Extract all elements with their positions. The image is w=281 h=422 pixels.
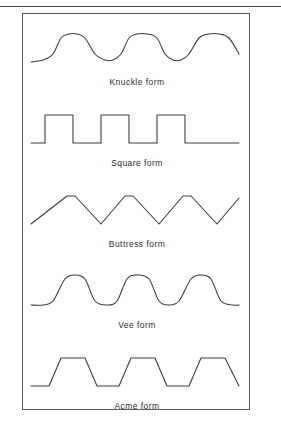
thread-form-trapezoidal: Acme form [23,348,251,411]
waveform-path [31,275,239,305]
thread-form-label: Acme form [23,401,251,411]
thread-form-label: Vee form [23,320,251,330]
thread-form-label: Knuckle form [23,77,251,87]
thread-forms-figure: Knuckle formSquare formButtress formVee … [0,0,281,422]
waveform-square [23,105,251,151]
thread-form-square: Square form [23,105,251,168]
waveform-path [31,115,239,143]
figure-frame: Knuckle formSquare formButtress formVee … [22,13,250,410]
thread-form-rounded-vee: Vee form [23,267,251,330]
top-horizontal-rule [0,6,281,7]
thread-form-rounded-sinusoidal: Knuckle form [23,24,251,87]
waveform-rounded-vee [23,267,251,313]
waveform-trapezoidal [23,348,251,394]
thread-form-list: Knuckle formSquare formButtress formVee … [23,14,251,411]
waveform-rounded-sinusoidal [23,24,251,70]
thread-form-label: Square form [23,158,251,168]
waveform-asymmetric-sawtooth [23,186,251,232]
thread-form-asymmetric-sawtooth: Buttress form [23,186,251,249]
waveform-path [31,358,239,386]
waveform-path [31,196,239,224]
waveform-path [31,33,239,62]
thread-form-label: Buttress form [23,239,251,249]
